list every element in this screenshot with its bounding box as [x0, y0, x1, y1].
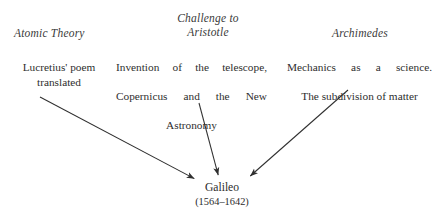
- arrow-archimedes-to-galileo: [250, 90, 348, 176]
- node-galileo-name: Galileo: [162, 181, 282, 195]
- arrow-atomic-theory-to-galileo: [40, 97, 194, 179]
- node-galileo-dates: (1564–1642): [162, 195, 282, 208]
- node-galileo: Galileo (1564–1642): [162, 181, 282, 208]
- arrow-challenge-to-galileo: [199, 103, 218, 175]
- diagram-canvas: Atomic Theory Challenge to Aristotle Arc…: [0, 0, 448, 213]
